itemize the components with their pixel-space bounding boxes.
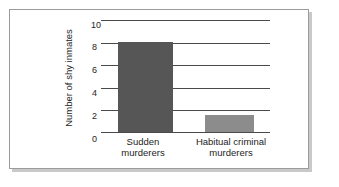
plot-area xyxy=(101,20,270,133)
chart-figure: Number of shy inmates 10 8 6 4 2 0 Sudde… xyxy=(0,0,339,187)
x-category-label-line-1: Sudden xyxy=(103,136,183,147)
x-category-label-line-1: Habitual criminal xyxy=(183,136,279,147)
y-axis-title-text: Number of shy inmates xyxy=(63,23,74,133)
x-category-label-line-2: murderers xyxy=(103,147,183,158)
x-category-label-habitual-criminal-murderers: Habitual criminal murderers xyxy=(183,136,279,158)
x-category-label-line-2: murderers xyxy=(183,147,279,158)
x-category-label-sudden-murderers: Sudden murderers xyxy=(103,136,183,158)
bar-sudden-murderers xyxy=(118,42,173,132)
x-axis-line xyxy=(101,132,270,133)
gridline-10 xyxy=(101,20,270,21)
y-axis-title: Number of shy inmates xyxy=(63,0,77,23)
bar-habitual-criminal-murderers xyxy=(205,115,254,132)
